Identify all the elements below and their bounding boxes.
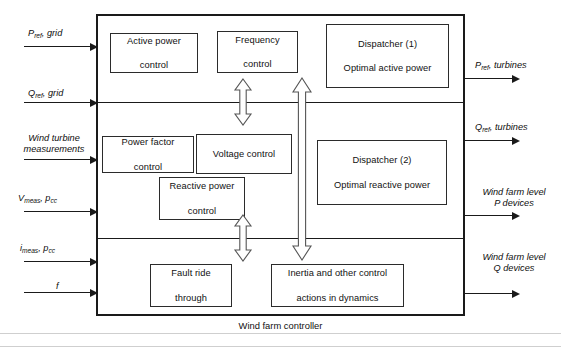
output-label-q-ref-turbines: Qref, turbines	[475, 122, 528, 133]
page-rule-bottom	[0, 346, 561, 347]
input-arrow-frequency-f	[24, 289, 98, 297]
block-voltage-control[interactable]: Voltage control	[196, 134, 292, 174]
block-fault-ride-through-line2: through	[168, 292, 213, 304]
input-label-q-ref-grid-rest: , grid	[43, 88, 63, 98]
block-fault-ride-through[interactable]: Fault ride through	[150, 264, 232, 307]
connector-arrow-upper-short	[233, 78, 253, 126]
output-label-p-ref-turbines-rest: , turbines	[489, 60, 527, 70]
input-label-v-meas-pcc: Vmeas, pcc	[18, 193, 57, 204]
block-active-power-control-line1: Active power	[124, 35, 184, 47]
input-arrow-v-meas-pcc	[24, 208, 98, 216]
connector-arrow-full-span	[291, 77, 313, 261]
block-dispatcher-1-line1: Dispatcher (1)	[341, 38, 435, 50]
output-arrow-q-ref-turbines	[464, 137, 520, 145]
block-power-factor-control[interactable]: Power factor control	[102, 136, 194, 173]
controller-caption: Wind farm controller	[96, 320, 465, 331]
block-fault-ride-through-line1: Fault ride	[168, 267, 213, 279]
block-dispatcher-2-line2: Optimal reactive power	[331, 179, 433, 191]
layer-divider-upper	[98, 102, 463, 103]
output-label-q-ref-turbines-sub: ref	[482, 126, 490, 133]
output-label-wind-farm-level-p-devices-line1: Wind farm level	[471, 187, 557, 198]
input-label-i-meas-pcc-sub2: cc	[48, 247, 55, 254]
block-voltage-control-line1: Voltage control	[210, 148, 278, 160]
input-label-q-ref-grid-sub: ref	[35, 92, 43, 99]
block-dispatcher-2[interactable]: Dispatcher (2) Optimal reactive power	[317, 140, 447, 205]
output-arrow-wind-farm-level-p-devices	[464, 212, 520, 220]
connector-arrow-lower-short	[233, 214, 253, 262]
input-label-p-ref-grid: Pref, grid	[28, 28, 62, 39]
input-label-wind-turbine-measurements-line2: measurements	[12, 144, 96, 155]
input-label-p-ref-grid-sub: ref	[34, 32, 42, 39]
output-label-wind-farm-level-p-devices: Wind farm level P devices	[471, 187, 557, 209]
input-arrow-p-ref-grid	[24, 43, 98, 51]
output-label-wind-farm-level-q-devices-line2: Q devices	[471, 263, 557, 274]
output-arrow-wind-farm-level-q-devices	[464, 290, 520, 298]
block-reactive-power-control-line2: control	[167, 205, 238, 217]
input-label-wind-turbine-measurements-line1: Wind turbine	[12, 133, 96, 144]
block-active-power-control[interactable]: Active power control	[110, 33, 198, 73]
input-label-v-meas-pcc-sub: meas	[24, 197, 40, 204]
output-label-p-ref-turbines: Pref, turbines	[475, 60, 527, 71]
input-label-v-meas-pcc-sub2: cc	[50, 197, 57, 204]
block-inertia-control-line2: actions in dynamics	[285, 292, 390, 304]
output-label-wind-farm-level-q-devices-line1: Wind farm level	[471, 252, 557, 263]
input-label-wind-turbine-measurements: Wind turbine measurements	[12, 133, 96, 155]
block-dispatcher-2-line1: Dispatcher (2)	[331, 154, 433, 166]
block-inertia-control-line1: Inertia and other control	[285, 267, 390, 279]
input-label-i-meas-pcc: imeas, pcc	[20, 243, 55, 254]
output-label-q-ref-turbines-rest: , turbines	[490, 122, 528, 132]
output-label-wind-farm-level-p-devices-line2: P devices	[471, 198, 557, 209]
block-dispatcher-1[interactable]: Dispatcher (1) Optimal active power	[326, 24, 449, 88]
block-power-factor-control-line2: control	[119, 161, 178, 173]
input-arrow-wind-turbine-measurements	[24, 156, 98, 164]
input-label-q-ref-grid: Qref, grid	[28, 88, 63, 99]
block-dispatcher-1-line2: Optimal active power	[341, 62, 435, 74]
block-frequency-control[interactable]: Frequency control	[217, 31, 298, 73]
block-inertia-control[interactable]: Inertia and other control actions in dyn…	[271, 264, 404, 307]
input-label-i-meas-pcc-rest: , p	[38, 243, 48, 253]
output-arrow-p-ref-turbines	[464, 75, 520, 83]
output-label-p-ref-turbines-sub: ref	[481, 64, 489, 71]
block-reactive-power-control-line1: Reactive power	[167, 180, 238, 192]
block-active-power-control-line2: control	[124, 59, 184, 71]
page-rule-top	[0, 333, 561, 334]
input-label-p-ref-grid-rest: , grid	[42, 28, 62, 38]
block-frequency-control-line1: Frequency	[232, 34, 282, 46]
block-power-factor-control-line1: Power factor	[119, 136, 178, 148]
input-arrow-i-meas-pcc	[24, 258, 98, 266]
layer-divider-lower	[98, 238, 463, 239]
output-label-wind-farm-level-q-devices: Wind farm level Q devices	[471, 252, 557, 274]
input-label-i-meas-pcc-sub: meas	[22, 247, 38, 254]
input-label-v-meas-pcc-rest: , p	[40, 193, 50, 203]
block-frequency-control-line2: control	[232, 58, 282, 70]
diagram-canvas: Pref, grid Qref, grid Wind turbine measu…	[0, 0, 561, 348]
input-arrow-q-ref-grid	[24, 99, 98, 107]
